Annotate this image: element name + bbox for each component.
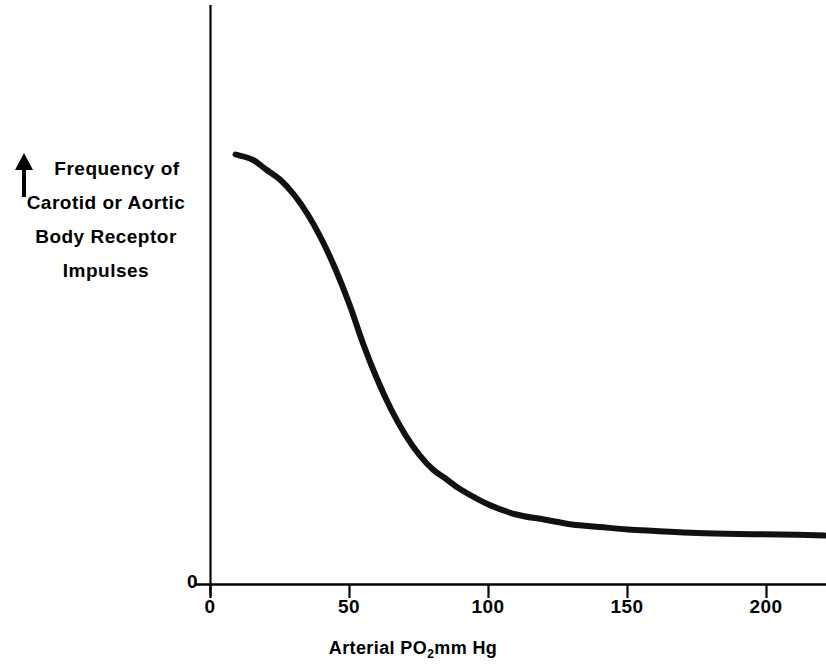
x-axis-tick-label-200: 200 bbox=[736, 596, 796, 618]
figure-canvas: Frequency of Carotid or Aortic Body Rece… bbox=[0, 0, 826, 667]
y-axis-label-line-3: Body Receptor bbox=[8, 220, 204, 254]
x-axis-title: Arterial PO2mm Hg bbox=[0, 638, 826, 659]
y-axis-label-line-4: Impulses bbox=[8, 254, 204, 288]
x-axis-tick-label-100: 100 bbox=[458, 596, 518, 618]
x-axis-title-subscript: 2 bbox=[427, 647, 434, 661]
x-axis-title-suffix: mm Hg bbox=[434, 638, 497, 658]
x-axis-tick-label-50: 50 bbox=[319, 596, 379, 618]
y-axis-label-line-2: Carotid or Aortic bbox=[8, 186, 204, 220]
x-axis-title-prefix: Arterial PO bbox=[329, 638, 427, 658]
y-axis-label: Frequency of Carotid or Aortic Body Rece… bbox=[8, 152, 204, 288]
y-axis-label-line-1: Frequency of bbox=[8, 152, 204, 186]
x-axis-tick-label-0: 0 bbox=[180, 596, 240, 618]
y-axis-tick-label-0: 0 bbox=[172, 571, 198, 593]
chart-plot bbox=[0, 0, 826, 667]
data-curve-chemoreceptor bbox=[236, 155, 825, 536]
x-axis-tick-label-150: 150 bbox=[597, 596, 657, 618]
